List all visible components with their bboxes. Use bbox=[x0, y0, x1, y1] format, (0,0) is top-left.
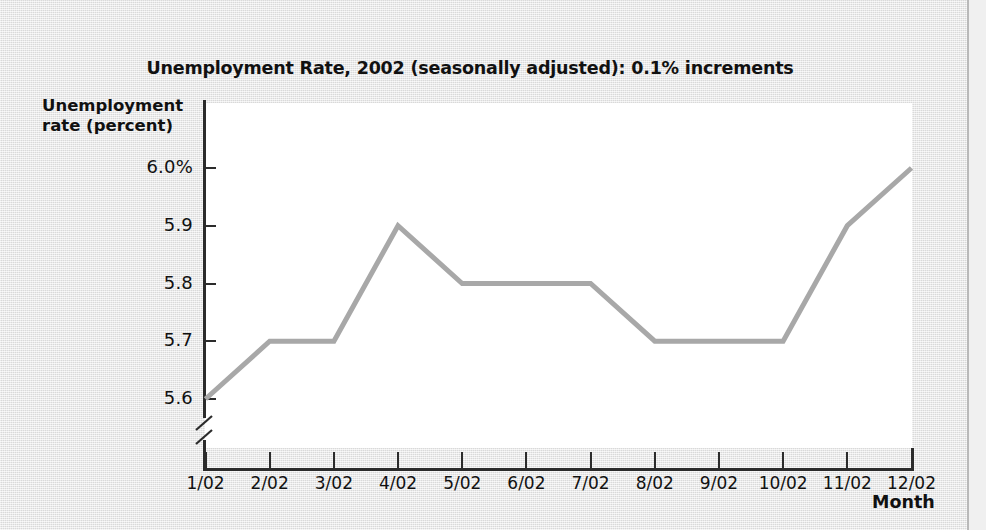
x-tick-label: 5/02 bbox=[443, 473, 481, 493]
y-tick-label: 5.6 bbox=[53, 387, 193, 408]
x-tick bbox=[525, 452, 527, 468]
x-tick bbox=[654, 452, 656, 468]
x-tick bbox=[269, 452, 271, 468]
x-tick bbox=[461, 452, 463, 468]
axis-break-icon bbox=[190, 414, 224, 448]
x-tick-label: 6/02 bbox=[507, 473, 545, 493]
x-tick-label: 3/02 bbox=[315, 473, 353, 493]
y-tick bbox=[205, 225, 216, 227]
x-tick-label: 8/02 bbox=[636, 473, 674, 493]
y-tick-labels: 6.0%5.95.85.75.6 bbox=[48, 0, 193, 530]
page-edge-gutter bbox=[969, 0, 986, 530]
x-tick bbox=[846, 452, 848, 468]
x-tick bbox=[718, 452, 720, 468]
x-tick bbox=[911, 452, 913, 468]
y-tick bbox=[205, 167, 216, 169]
plot-area bbox=[205, 103, 912, 448]
x-tick-label: 7/02 bbox=[571, 473, 609, 493]
x-tick bbox=[782, 452, 784, 468]
y-axis-line bbox=[203, 100, 206, 418]
x-tick bbox=[205, 452, 207, 468]
x-tick-label: 12/02 bbox=[887, 473, 936, 493]
x-tick-label: 4/02 bbox=[379, 473, 417, 493]
x-tick-label: 11/02 bbox=[823, 473, 872, 493]
y-tick bbox=[205, 398, 216, 400]
y-tick-label: 5.7 bbox=[53, 329, 193, 350]
x-tick-label: 2/02 bbox=[251, 473, 289, 493]
x-tick bbox=[333, 452, 335, 468]
x-tick bbox=[397, 452, 399, 468]
x-tick-label: 9/02 bbox=[700, 473, 738, 493]
x-tick bbox=[590, 452, 592, 468]
y-tick-label: 5.9 bbox=[53, 214, 193, 235]
chart-page: Unemployment Rate, 2002 (seasonally adju… bbox=[0, 0, 986, 530]
y-tick bbox=[205, 283, 216, 285]
y-tick-label: 5.8 bbox=[53, 272, 193, 293]
x-tick-label: 10/02 bbox=[759, 473, 808, 493]
x-axis-title: Month bbox=[872, 492, 935, 512]
x-tick-label: 1/02 bbox=[186, 473, 224, 493]
x-axis-line bbox=[203, 468, 914, 471]
y-tick bbox=[205, 340, 216, 342]
y-tick-label: 6.0% bbox=[53, 156, 193, 177]
